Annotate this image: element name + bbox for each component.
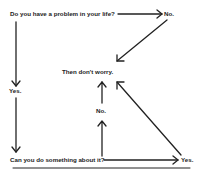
then-dont-worry-label: Then don't worry. [62, 69, 113, 75]
flowchart-arrows [0, 0, 200, 173]
answer-no-label: No. [164, 11, 174, 17]
question-problem-label: Do you have a problem in your life? [10, 11, 115, 17]
answer-no-label-2: No. [96, 108, 106, 114]
question-can-do-label: Can you do something about it? [10, 157, 105, 163]
answer-yes-label-2: Yes. [181, 157, 193, 163]
answer-yes-label: Yes. [9, 88, 21, 94]
